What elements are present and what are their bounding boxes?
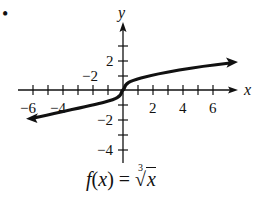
caption-equals: = <box>114 168 135 190</box>
caption-x: x <box>98 168 107 190</box>
x-axis-label: x <box>243 81 251 98</box>
y-tick-label-neg4: −4 <box>97 142 113 158</box>
x-axis: x −6 −4 2 4 6 <box>18 81 251 116</box>
y-axis: y 2 −2 −2 −4 <box>82 4 128 163</box>
function-caption: f(x) = 3√x <box>86 168 156 191</box>
y-tick-label-2: 2 <box>106 53 114 69</box>
radical-index: 3 <box>138 162 143 173</box>
y-tick-label-neg2-upper: −2 <box>82 68 98 84</box>
cube-root-radical: 3√x <box>135 168 156 191</box>
y-tick-label-neg2: −2 <box>97 112 113 128</box>
caption-close-paren: ) <box>107 168 114 190</box>
y-axis-label: y <box>116 4 126 22</box>
x-tick-label-6: 6 <box>209 100 217 116</box>
x-tick-label-2: 2 <box>149 100 157 116</box>
x-tick-label-neg6: −6 <box>20 100 36 116</box>
bullet-marker: • <box>2 4 8 24</box>
radicand: x <box>146 167 156 190</box>
x-tick-label-4: 4 <box>179 100 187 116</box>
